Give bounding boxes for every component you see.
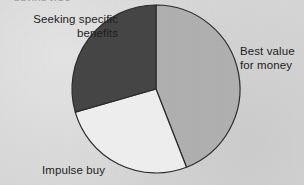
pie-chart-figure: buying type Seeking specific benefits Be… [0,0,304,185]
slice-label-impulse-buy: Impulse buy [42,164,140,178]
slice-label-seeking-specific-benefits: Seeking specific benefits [6,13,118,40]
slice-label-best-value-for-money: Best value for money [240,45,302,72]
